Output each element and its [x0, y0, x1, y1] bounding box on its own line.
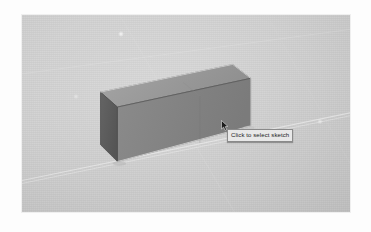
app-root: Click to select sketch: [0, 0, 371, 232]
model-contact-shadow: [112, 161, 126, 165]
model-solid[interactable]: [22, 15, 350, 212]
tooltip: Click to select sketch: [227, 129, 293, 142]
viewport-canvas[interactable]: [21, 14, 351, 213]
